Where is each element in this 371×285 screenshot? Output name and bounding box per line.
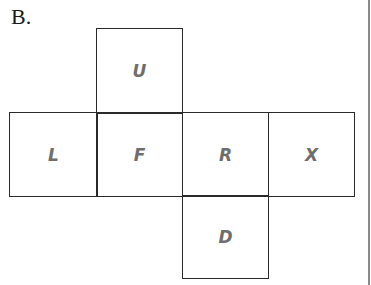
page-divider-line (368, 0, 370, 285)
face-r: R (182, 112, 269, 197)
face-d-label: D (218, 227, 232, 247)
face-u: U (96, 28, 183, 114)
face-x: X (268, 112, 355, 197)
option-label: B. (11, 4, 31, 30)
face-u-label: U (133, 61, 147, 81)
face-l: L (9, 112, 98, 197)
face-x-label: X (305, 145, 318, 165)
face-d: D (182, 195, 269, 279)
face-f: F (96, 112, 183, 197)
face-r-label: R (219, 145, 232, 165)
face-l-label: L (48, 145, 59, 165)
face-f-label: F (134, 145, 146, 165)
